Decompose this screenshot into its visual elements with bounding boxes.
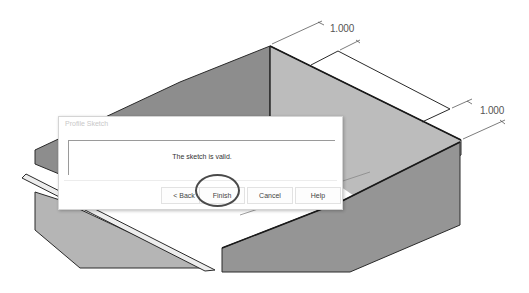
validation-message: The sketch is valid. bbox=[69, 153, 335, 160]
message-panel: The sketch is valid. bbox=[68, 140, 335, 175]
help-button[interactable]: Help bbox=[295, 187, 341, 204]
finish-button[interactable]: Finish bbox=[199, 187, 245, 204]
divider bbox=[64, 180, 337, 181]
cancel-button[interactable]: Cancel bbox=[247, 187, 293, 204]
dimension-label-top[interactable]: 1.000 bbox=[330, 23, 354, 34]
profile-sketch-dialog: Profile Sketch The sketch is valid. < Ba… bbox=[58, 116, 343, 210]
dialog-title: Profile Sketch bbox=[65, 120, 108, 127]
dimension-label-right[interactable]: 1.000 bbox=[480, 105, 504, 116]
